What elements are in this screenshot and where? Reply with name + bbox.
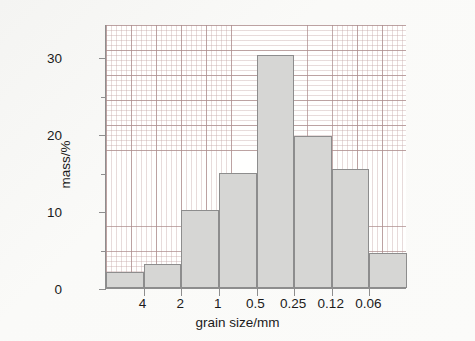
bar — [144, 264, 182, 288]
x-axis-tick — [219, 289, 220, 296]
x-axis-tick — [294, 289, 295, 296]
bar — [294, 136, 332, 288]
x-axis-tick-label: 0.25 — [280, 296, 306, 311]
figure-canvas: 0102030 4210.50.250.120.06 mass/% grain … — [0, 0, 475, 341]
y-axis-title: mass/% — [58, 140, 73, 188]
bar — [332, 169, 370, 288]
y-axis-minor-tick — [101, 97, 106, 98]
x-axis-tick-label: 0.06 — [355, 296, 381, 311]
x-axis-tick-label: 1 — [214, 296, 222, 311]
bar — [181, 210, 219, 289]
y-axis-tick-label: 30 — [22, 51, 62, 66]
x-axis-tick-label: 0.5 — [246, 296, 265, 311]
bar-series — [106, 25, 406, 288]
bar — [369, 253, 407, 288]
y-axis-tick-label: 0 — [22, 282, 62, 297]
y-axis-tick — [99, 58, 106, 59]
x-axis-tick — [144, 289, 145, 296]
plot-area — [105, 25, 406, 289]
bar — [257, 55, 295, 288]
y-axis-minor-tick — [101, 174, 106, 175]
bar — [219, 173, 257, 288]
x-axis-tick — [181, 289, 182, 296]
x-axis-tick-label: 2 — [176, 296, 184, 311]
x-axis-tick — [369, 289, 370, 296]
x-axis-title: grain size/mm — [0, 315, 475, 330]
y-axis-tick — [99, 212, 106, 213]
y-axis-tick-label: 20 — [22, 128, 62, 143]
x-axis-tick-label: 4 — [139, 296, 147, 311]
bar — [106, 272, 144, 288]
x-axis-tick — [257, 289, 258, 296]
y-axis-minor-tick — [101, 251, 106, 252]
y-axis-tick — [99, 135, 106, 136]
x-axis-tick — [332, 289, 333, 296]
y-axis-tick — [99, 289, 106, 290]
y-axis-tick-label: 10 — [22, 205, 62, 220]
x-axis-tick-label: 0.12 — [318, 296, 344, 311]
